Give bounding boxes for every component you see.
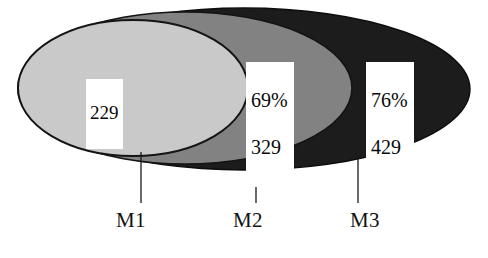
ellipse-m1 — [18, 20, 248, 156]
m3-percent: 76% — [371, 89, 408, 113]
set-label-m3: M3 — [350, 208, 380, 233]
m1-count: 229 — [90, 102, 119, 124]
set-label-m1: M1 — [116, 208, 146, 233]
m2-count: 329 — [251, 136, 288, 160]
set-label-m2: M2 — [233, 208, 263, 233]
value-box-m1: 229 — [86, 79, 123, 149]
venn-diagram: 229 69% 329 76% 429 M1 M2 M3 — [0, 0, 488, 258]
value-box-m3: 76% 429 — [366, 62, 414, 187]
value-box-m2: 69% 329 — [246, 62, 294, 187]
m2-percent: 69% — [251, 89, 288, 113]
m3-count: 429 — [371, 136, 408, 160]
